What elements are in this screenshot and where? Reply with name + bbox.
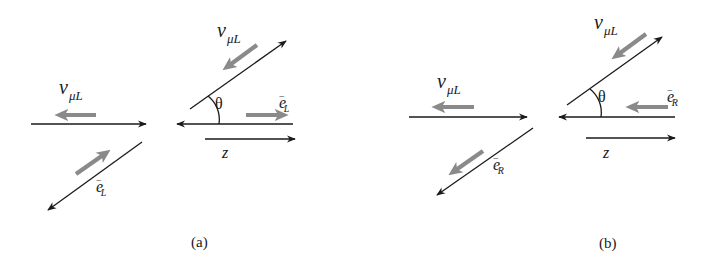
outgoing-neutrino-label: νμL bbox=[217, 19, 241, 46]
outgoing-neutrino-label: νμL bbox=[594, 11, 618, 38]
scattering-angle-label: θ bbox=[215, 95, 223, 112]
incoming-electron-momentum-arrow bbox=[48, 142, 142, 210]
outgoing-neutrino-spin-arrow bbox=[616, 34, 646, 56]
panel-a: νμL e−L e−L νμL θ z (a) bbox=[31, 19, 295, 251]
scattering-diagram: νμL e−L e−L νμL θ z (a) νμL e−R e−R bbox=[0, 0, 706, 266]
panel-b-caption: (b) bbox=[599, 235, 617, 252]
outgoing-electron-label: e−R bbox=[667, 85, 678, 108]
incoming-electron-label: e−R bbox=[493, 153, 504, 176]
incoming-electron-momentum-arrow bbox=[437, 128, 533, 195]
z-axis-label: z bbox=[602, 144, 610, 161]
incoming-electron-spin-arrow bbox=[453, 151, 483, 172]
outgoing-neutrino-momentum-arrow bbox=[567, 37, 662, 105]
panel-a-caption: (a) bbox=[191, 234, 208, 251]
incoming-neutrino-label: νμL bbox=[59, 76, 83, 103]
outgoing-neutrino-spin-arrow bbox=[227, 45, 257, 67]
panel-b: νμL e−R e−R νμL θ z (b) bbox=[409, 11, 678, 252]
outgoing-neutrino-momentum-arrow bbox=[190, 41, 286, 109]
incoming-electron-label: e−L bbox=[96, 175, 107, 198]
outgoing-electron-label: e−L bbox=[279, 91, 290, 114]
incoming-neutrino-label: νμL bbox=[437, 70, 461, 97]
z-axis-label: z bbox=[221, 144, 229, 161]
scattering-angle-label: θ bbox=[598, 88, 606, 105]
